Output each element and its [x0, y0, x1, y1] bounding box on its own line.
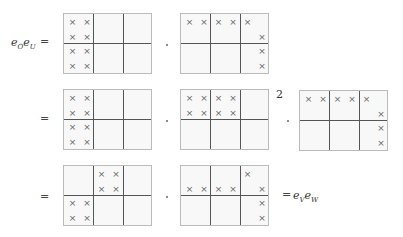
product-dot-r3 — [166, 196, 168, 198]
cross-mark-icon: × — [182, 106, 197, 121]
cross-mark-icon: × — [182, 15, 197, 30]
cross-mark-icon: × — [65, 91, 80, 106]
cross-mark-icon: × — [65, 44, 80, 59]
cross-mark-icon: × — [240, 15, 255, 30]
cross-mark-icon: × — [301, 92, 316, 107]
cross-mark-icon: × — [94, 167, 109, 182]
cross-mark-icon: × — [211, 182, 226, 197]
cross-mark-icon: × — [255, 30, 270, 45]
cross-mark-icon: × — [80, 196, 95, 211]
cross-mark-icon: × — [226, 15, 241, 30]
cross-mark-icon: × — [240, 167, 255, 182]
cross-mark-icon: × — [182, 91, 197, 106]
cross-mark-icon: × — [197, 91, 212, 106]
matrix-r2-m1: ×××××××× — [63, 89, 152, 150]
cross-mark-icon: × — [316, 92, 331, 107]
cross-mark-icon: × — [197, 106, 212, 121]
cross-mark-icon: × — [255, 44, 270, 59]
cross-mark-icon: × — [80, 91, 95, 106]
cross-mark-icon: × — [65, 120, 80, 135]
cross-mark-icon: × — [65, 59, 80, 74]
cross-mark-icon: × — [109, 167, 124, 182]
cross-mark-icon: × — [330, 92, 345, 107]
product-dot-r1 — [166, 44, 168, 46]
cross-mark-icon: × — [80, 44, 95, 59]
cross-mark-icon: × — [182, 182, 197, 197]
cross-mark-icon: × — [226, 182, 241, 197]
cross-mark-icon: × — [109, 182, 124, 197]
product-dot-r2a — [166, 120, 168, 122]
cross-mark-icon: × — [255, 196, 270, 211]
cross-mark-icon: × — [197, 15, 212, 30]
cross-mark-icon: × — [211, 15, 226, 30]
cross-mark-icon: × — [65, 211, 80, 226]
cross-mark-icon: × — [65, 196, 80, 211]
equals-sign-rhs: = — [282, 188, 291, 201]
matrix-r1-m2: ×××××××× — [180, 13, 269, 74]
cross-mark-icon: × — [374, 136, 389, 151]
cross-mark-icon: × — [211, 106, 226, 121]
cross-mark-icon: × — [374, 107, 389, 122]
cross-mark-icon: × — [226, 91, 241, 106]
rhs-sub-w: W — [311, 196, 318, 204]
cross-mark-icon: × — [80, 135, 95, 150]
equals-sign-row3: = — [40, 190, 49, 203]
cross-mark-icon: × — [80, 59, 95, 74]
cross-mark-icon: × — [80, 15, 95, 30]
matrix-r2-m3: ×××××××× — [299, 90, 388, 151]
cross-mark-icon: × — [345, 92, 360, 107]
cross-mark-icon: × — [255, 211, 270, 226]
cross-mark-icon: × — [80, 120, 95, 135]
cross-mark-icon: × — [359, 92, 374, 107]
cross-mark-icon: × — [65, 135, 80, 150]
lhs-sub-u: U — [30, 43, 36, 51]
product-dot-r2b — [287, 120, 289, 122]
cross-mark-icon: × — [65, 15, 80, 30]
cross-mark-icon: × — [80, 211, 95, 226]
cross-mark-icon: × — [197, 182, 212, 197]
cross-mark-icon: × — [255, 182, 270, 197]
cross-mark-icon: × — [374, 121, 389, 136]
equals-sign-row1: = — [40, 35, 49, 48]
cross-mark-icon: × — [80, 106, 95, 121]
cross-mark-icon: × — [65, 106, 80, 121]
cross-mark-icon: × — [80, 30, 95, 45]
lhs-label: eOeU — [11, 36, 36, 51]
matrix-r2-m2: ×××××××× — [180, 89, 269, 150]
matrix-r3-m1: ×××××××× — [63, 165, 152, 226]
cross-mark-icon: × — [65, 30, 80, 45]
matrix-r1-m1: ×××××××× — [63, 13, 152, 74]
matrix-r3-m2: ×××××××× — [180, 165, 269, 226]
cross-mark-icon: × — [226, 106, 241, 121]
rhs-label: eVeW — [293, 189, 318, 204]
exponent-2: 2 — [276, 88, 283, 101]
cross-mark-icon: × — [255, 59, 270, 74]
equals-sign-row2: = — [40, 112, 49, 125]
cross-mark-icon: × — [94, 182, 109, 197]
cross-mark-icon: × — [211, 91, 226, 106]
